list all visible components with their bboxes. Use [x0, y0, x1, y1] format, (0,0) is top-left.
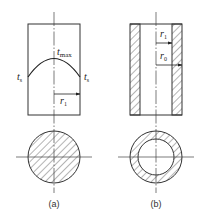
left-wall [130, 24, 140, 115]
caption-b: (b) [151, 199, 162, 209]
panel-a: tmax ts ts r1 (a) [16, 12, 92, 209]
right-wall [172, 24, 182, 115]
label-r1-b: r1 [160, 28, 167, 40]
diagram-canvas: tmax ts ts r1 (a) r1 r0 [0, 0, 205, 224]
label-t-s-left: ts [17, 71, 23, 83]
caption-a: (a) [49, 199, 60, 209]
label-t-max: tmax [57, 46, 72, 59]
label-t-s-right: ts [84, 71, 90, 83]
label-r1-a: r1 [60, 95, 67, 107]
panel-b: r1 r0 (b) [118, 12, 194, 209]
label-r0-b: r0 [160, 50, 167, 62]
